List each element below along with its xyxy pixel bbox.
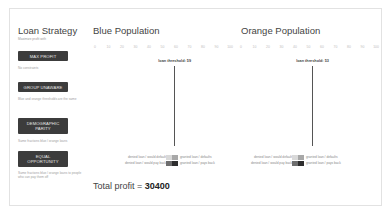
- axis-tick-label: 100: [227, 45, 233, 49]
- histogram-dot: [186, 137, 188, 139]
- histogram-dot: [193, 127, 195, 129]
- histogram-dot: [281, 129, 283, 131]
- histogram-dot: [175, 139, 177, 141]
- histogram-dot: [155, 139, 157, 141]
- histogram-dot: [254, 142, 256, 144]
- histogram-dot: [325, 124, 327, 126]
- histogram-dot: [352, 142, 354, 144]
- demographic-parity-button[interactable]: DEMOGRAPHIC PARITY: [18, 118, 68, 134]
- histogram-dot: [182, 132, 184, 134]
- histogram-dot: [308, 134, 310, 136]
- histogram-dot: [195, 132, 197, 134]
- axis-tick-label: 70: [334, 45, 338, 49]
- histogram-dot: [179, 117, 181, 119]
- blue-threshold-handle[interactable]: [174, 66, 175, 146]
- histogram-dot: [328, 124, 330, 126]
- histogram-dot: [148, 137, 150, 139]
- histogram-dot: [298, 119, 300, 121]
- equal-opportunity-button[interactable]: EQUAL OPPORTUNITY: [18, 151, 68, 167]
- histogram-dot: [189, 134, 191, 136]
- histogram-dot: [179, 114, 181, 116]
- axis-tick-label: 90: [361, 45, 365, 49]
- histogram-dot: [308, 139, 310, 141]
- histogram-dot: [168, 127, 170, 129]
- histogram-dot: [148, 142, 150, 144]
- histogram-dot: [265, 137, 267, 139]
- max-profit-button[interactable]: MAX PROFIT: [18, 51, 68, 61]
- histogram-dot: [168, 142, 170, 144]
- histogram-dot: [301, 134, 303, 136]
- histogram-dot: [168, 139, 170, 141]
- histogram-dot: [195, 139, 197, 141]
- histogram-dot: [292, 142, 294, 144]
- histogram-dot: [321, 124, 323, 126]
- histogram-dot: [195, 137, 197, 139]
- histogram-dot: [175, 117, 177, 119]
- total-profit: Total profit = 30400: [93, 181, 170, 191]
- histogram-dot: [260, 142, 262, 144]
- histogram-dot: [332, 142, 334, 144]
- histogram-dot: [335, 132, 337, 134]
- histogram-dot: [200, 132, 202, 134]
- histogram-dot: [314, 117, 316, 119]
- histogram-dot: [155, 124, 157, 126]
- histogram-dot: [200, 137, 202, 139]
- histogram-dot: [162, 122, 164, 124]
- histogram-dot: [175, 134, 177, 136]
- histogram-dot: [294, 122, 296, 124]
- histogram-dot: [146, 134, 148, 136]
- histogram-dot: [132, 139, 134, 141]
- histogram-dot: [182, 119, 184, 121]
- histogram-dot: [182, 112, 184, 114]
- histogram-dot: [193, 139, 195, 141]
- histogram-dot: [195, 129, 197, 131]
- sidebar-title: Loan Strategy: [18, 25, 77, 36]
- histogram-dot: [175, 127, 177, 129]
- histogram-dot: [335, 134, 337, 136]
- histogram-dot: [287, 132, 289, 134]
- swatch-granted-payback: [172, 161, 178, 166]
- legend-denied-default: denied loan / would default: [128, 155, 166, 159]
- histogram-dot: [189, 124, 191, 126]
- histogram-dot: [175, 109, 177, 111]
- histogram-dot: [186, 132, 188, 134]
- histogram-dot: [152, 137, 154, 139]
- histogram-dot: [292, 124, 294, 126]
- group-unaware-button[interactable]: GROUP UNAWARE: [18, 82, 68, 92]
- histogram-dot: [325, 137, 327, 139]
- histogram-dot: [162, 139, 164, 141]
- histogram-dot: [168, 137, 170, 139]
- histogram-dot: [216, 142, 218, 144]
- axis-tick-label: 40: [293, 45, 297, 49]
- histogram-dot: [314, 132, 316, 134]
- histogram-dot: [159, 132, 161, 134]
- histogram-dot: [141, 139, 143, 141]
- histogram-dot: [314, 127, 316, 129]
- histogram-dot: [305, 139, 307, 141]
- histogram-dot: [179, 129, 181, 131]
- histogram-dot: [202, 142, 204, 144]
- histogram-dot: [294, 124, 296, 126]
- histogram-dot: [325, 134, 327, 136]
- histogram-dot: [202, 134, 204, 136]
- histogram-dot: [341, 134, 343, 136]
- histogram-dot: [189, 132, 191, 134]
- histogram-dot: [159, 134, 161, 136]
- histogram-dot: [168, 112, 170, 114]
- histogram-dot: [166, 139, 168, 141]
- histogram-dot: [206, 142, 208, 144]
- histogram-dot: [186, 127, 188, 129]
- axis-tick-label: 70: [188, 45, 192, 49]
- histogram-dot: [195, 134, 197, 136]
- histogram-dot: [168, 122, 170, 124]
- histogram-dot: [274, 139, 276, 141]
- histogram-dot: [159, 119, 161, 121]
- histogram-dot: [182, 122, 184, 124]
- orange-threshold-handle[interactable]: [312, 66, 313, 146]
- histogram-dot: [287, 129, 289, 131]
- equal-opportunity-description: Same fractions blue / orange loans to pe…: [18, 171, 82, 180]
- histogram-dot: [189, 127, 191, 129]
- histogram-dot: [179, 112, 181, 114]
- histogram-dot: [292, 122, 294, 124]
- histogram-dot: [301, 132, 303, 134]
